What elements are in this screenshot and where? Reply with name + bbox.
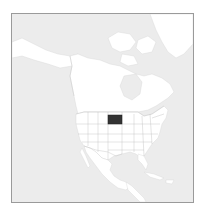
arctic-islands bbox=[108, 32, 156, 66]
cuba bbox=[144, 172, 164, 180]
greenland bbox=[150, 14, 193, 58]
north-america-map bbox=[12, 14, 193, 202]
florida bbox=[138, 154, 148, 170]
central-america bbox=[126, 182, 146, 202]
hispaniola bbox=[166, 180, 174, 184]
south-dakota-highlight bbox=[108, 115, 122, 124]
map-frame: South Dakota bbox=[11, 13, 194, 203]
